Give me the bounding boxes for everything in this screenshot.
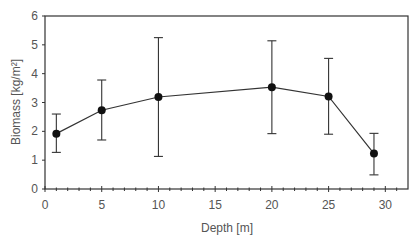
y-tick-label: 2 <box>31 124 38 138</box>
x-tick-label: 30 <box>379 198 393 212</box>
data-point-marker <box>370 150 378 158</box>
y-tick-label: 4 <box>31 67 38 81</box>
x-tick-label: 20 <box>265 198 279 212</box>
y-tick-label: 3 <box>31 96 38 110</box>
error-bars <box>52 38 379 175</box>
data-point-marker <box>98 106 106 114</box>
x-axis-label: Depth [m] <box>201 221 253 235</box>
y-tick-label: 0 <box>31 182 38 196</box>
x-tick-label: 10 <box>152 198 166 212</box>
data-point-marker <box>325 92 333 100</box>
y-tick-label: 1 <box>31 153 38 167</box>
data-point-marker <box>268 83 276 91</box>
plot-frame <box>45 16 408 189</box>
data-point-marker <box>52 130 60 138</box>
data-point-marker <box>154 93 162 101</box>
biomass-depth-chart: 051015202530 0123456 Depth [m] Biomass [… <box>0 0 419 243</box>
y-tick-label: 5 <box>31 38 38 52</box>
x-tick-label: 5 <box>98 198 105 212</box>
x-tick-label: 25 <box>322 198 336 212</box>
plot-border <box>45 16 408 189</box>
y-tick-label: 6 <box>31 9 38 23</box>
x-axis-ticks: 051015202530 <box>42 186 397 212</box>
y-axis-ticks: 0123456 <box>31 9 45 196</box>
x-tick-label: 15 <box>208 198 222 212</box>
y-axis-label: Biomass [kg/m²] <box>9 59 23 145</box>
x-tick-label: 0 <box>42 198 49 212</box>
